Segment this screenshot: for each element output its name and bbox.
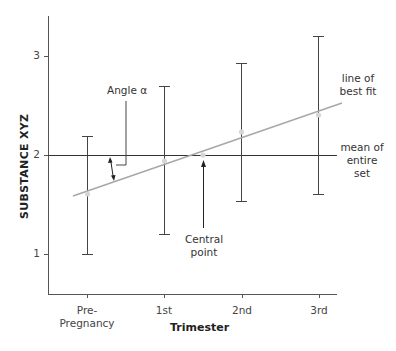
mean-label-line2: entire [339,154,385,167]
best-fit-label-line2: best fit [336,85,380,98]
mean-label-line3: set [339,167,385,180]
y-tick-label-3: 3 [20,49,40,61]
y-tick-label-1: 1 [20,247,40,259]
x-category-pre: Pre- Pregnancy [47,304,127,330]
best-fit-line [73,103,342,196]
angle-alpha-label: Angle α [107,84,147,97]
x-category-3rd: 3rd [279,304,359,317]
x-category-2nd: 2nd [202,304,282,317]
mean-label-line1: mean of [339,141,385,154]
arrowhead-down-icon [111,175,116,181]
x-category-pre-line2: Pregnancy [47,317,127,330]
best-fit-label-line1: line of [336,72,380,85]
central-point [200,152,205,157]
mean-label: mean of entire set [339,141,385,180]
x-category-1st: 1st [124,304,204,317]
point-pre [85,191,90,196]
x-axis-title: Trimester [170,321,229,334]
x-category-pre-line1: Pre- [47,304,127,317]
point-1st [162,158,167,163]
central-point-label-line2: point [183,246,225,259]
point-2nd [239,129,244,134]
y-axis-title: SUBSTANCE XYZ [18,114,31,219]
best-fit-label: line of best fit [336,72,380,98]
central-point-label-line1: Central [183,233,225,246]
chart-plot [0,0,396,351]
central-point-label: Central point [183,233,225,259]
arrowhead-up-icon [201,160,206,167]
arrowhead-up-icon [108,157,113,163]
point-3rd [316,112,321,117]
